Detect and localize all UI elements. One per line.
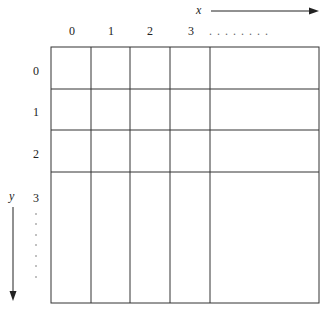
column-label-2: 2 xyxy=(147,25,153,37)
row-label-3: 3 xyxy=(33,192,39,204)
row-label-0: 0 xyxy=(33,65,39,77)
y-axis-label: y xyxy=(9,190,14,202)
row-label-2: 2 xyxy=(33,148,39,160)
row-label-1: 1 xyxy=(33,106,39,118)
column-label-0: 0 xyxy=(69,25,75,37)
column-label-1: 1 xyxy=(108,25,114,37)
column-ellipsis: . . . . . . . . xyxy=(209,25,269,37)
column-label-3: 3 xyxy=(188,25,194,37)
grid-lines xyxy=(0,0,329,314)
x-axis-arrow xyxy=(211,8,319,15)
y-axis-arrow xyxy=(10,207,17,301)
row-ellipsis xyxy=(35,213,36,277)
x-axis-label: x xyxy=(196,4,201,16)
